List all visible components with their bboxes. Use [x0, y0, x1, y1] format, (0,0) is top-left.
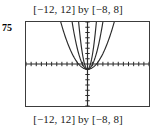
calculator-screen-frame	[25, 21, 150, 107]
parabolas-plot	[26, 22, 149, 106]
problem-number-label: 75	[2, 22, 12, 33]
viewing-window-caption-bottom: [−12, 12] by [−8, 8]	[0, 113, 156, 126]
graph-figure: [−12, 12] by [−8, 8] 75 [−12, 12] by [−8…	[0, 0, 156, 130]
viewing-window-caption-top: [−12, 12] by [−8, 8]	[0, 3, 156, 16]
